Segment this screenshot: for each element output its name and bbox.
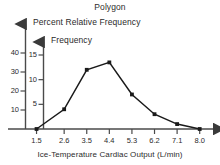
data-point-marker — [175, 122, 179, 126]
percent-tick-label: 10 — [0, 105, 19, 114]
x-tick-label: 8.0 — [191, 136, 209, 145]
x-tick-label: 1.5 — [28, 136, 46, 145]
data-point-marker — [153, 112, 157, 116]
x-tick-label: 2.6 — [55, 136, 73, 145]
x-axis-ticks — [37, 129, 200, 134]
frequency-polygon-line — [37, 62, 200, 129]
data-point-marker — [198, 127, 202, 131]
x-tick-label: 3.5 — [78, 136, 96, 145]
frequency-tick-label: 10 — [19, 75, 37, 84]
data-point-marker — [62, 107, 66, 111]
data-point-marker — [35, 127, 39, 131]
data-point-marker — [130, 93, 134, 97]
percent-tick-label: 40 — [0, 48, 19, 57]
percent-tick-label: 20 — [0, 86, 19, 95]
data-point-markers — [35, 61, 202, 131]
frequency-y-axis-ticks — [39, 55, 44, 104]
frequency-tick-label: 15 — [19, 50, 37, 59]
x-tick-label: 6.2 — [146, 136, 164, 145]
data-point-marker — [85, 68, 89, 72]
frequency-tick-label: 5 — [19, 99, 37, 108]
data-point-marker — [107, 61, 111, 65]
axis-lines — [8, 24, 213, 129]
x-tick-label: 7.1 — [168, 136, 186, 145]
percent-tick-label: 30 — [0, 67, 19, 76]
x-tick-label: 4.4 — [100, 136, 118, 145]
x-tick-label: 5.3 — [123, 136, 141, 145]
